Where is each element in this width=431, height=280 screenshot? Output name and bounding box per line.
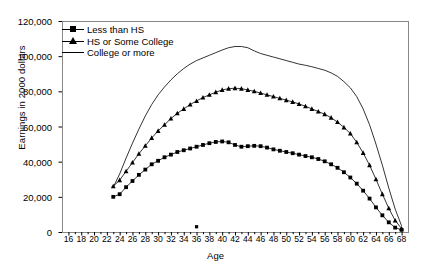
data-point-marker — [387, 220, 391, 224]
data-point-marker — [150, 162, 154, 166]
data-point-marker — [335, 120, 340, 125]
data-point-marker — [386, 206, 391, 211]
series-line-2 — [113, 47, 401, 226]
x-tick-label: 22 — [102, 234, 112, 244]
stray-data-point-marker — [195, 225, 198, 228]
data-point-marker — [137, 173, 141, 177]
x-axis-title: Age — [0, 250, 431, 261]
legend-marker-icon — [62, 47, 84, 58]
legend-marker-icon — [62, 24, 84, 35]
x-tick-label: 62 — [358, 234, 368, 244]
x-tick-label: 50 — [281, 234, 291, 244]
x-tick-label: 18 — [76, 234, 86, 244]
data-point-marker — [393, 226, 397, 230]
earnings-by-age-chart: Earnings in 2000 dollars 020,00040,00060… — [0, 0, 431, 280]
x-tick-label: 52 — [294, 234, 304, 244]
data-point-marker — [278, 149, 282, 153]
data-point-marker — [156, 159, 160, 163]
legend-item: Less than HS — [62, 24, 174, 36]
data-point-marker — [380, 213, 384, 217]
data-point-marker — [297, 153, 301, 157]
legend-label: College or more — [87, 47, 155, 59]
data-point-marker — [393, 218, 398, 223]
data-point-marker — [329, 162, 333, 166]
x-tick-label: 30 — [153, 234, 163, 244]
data-point-marker — [361, 189, 365, 193]
data-point-marker — [207, 141, 211, 145]
data-point-marker — [118, 192, 122, 196]
data-point-marker — [169, 116, 174, 121]
x-tick-label: 26 — [128, 234, 138, 244]
data-point-marker — [111, 195, 115, 199]
data-point-marker — [131, 179, 135, 183]
data-point-marker — [175, 111, 180, 116]
data-point-marker — [336, 166, 340, 170]
data-point-marker — [291, 151, 295, 155]
x-tick-label: 20 — [89, 234, 99, 244]
legend-label: Less than HS — [87, 24, 144, 36]
data-point-marker — [310, 155, 314, 159]
data-point-marker — [246, 144, 250, 148]
data-point-marker — [233, 143, 237, 147]
data-point-marker — [124, 185, 128, 189]
x-tick-label: 58 — [333, 234, 343, 244]
data-point-marker — [214, 140, 218, 144]
chart-legend: Less than HSHS or Some CollegeCollege or… — [62, 24, 174, 59]
data-point-marker — [220, 140, 224, 144]
data-point-marker — [201, 143, 205, 147]
data-point-marker — [367, 163, 372, 168]
data-point-marker — [182, 148, 186, 152]
data-point-marker — [195, 145, 199, 149]
x-tick-label: 40 — [217, 234, 227, 244]
data-point-marker — [348, 176, 352, 180]
data-point-marker — [240, 145, 244, 149]
data-point-marker — [361, 150, 366, 155]
x-tick-label: 54 — [307, 234, 317, 244]
series-line-0 — [113, 141, 401, 229]
data-point-marker — [342, 170, 346, 174]
x-tick-label: 44 — [243, 234, 253, 244]
x-tick-label: 28 — [141, 234, 151, 244]
x-tick-label: 36 — [192, 234, 202, 244]
data-point-marker — [181, 106, 186, 111]
x-tick-label: 32 — [166, 234, 176, 244]
x-tick-label: 34 — [179, 234, 189, 244]
data-point-marker — [227, 140, 231, 144]
legend-marker-icon — [62, 36, 84, 47]
data-point-marker — [175, 150, 179, 154]
data-point-marker — [233, 86, 238, 91]
legend-label: HS or Some College — [87, 36, 174, 48]
data-point-marker — [188, 147, 192, 151]
data-point-marker — [316, 157, 320, 161]
x-tick-label: 16 — [64, 234, 74, 244]
data-point-marker — [284, 150, 288, 154]
x-tick-label: 66 — [384, 234, 394, 244]
data-point-marker — [265, 146, 269, 150]
data-point-marker — [272, 147, 276, 151]
data-point-marker — [323, 159, 327, 163]
legend-item: HS or Some College — [62, 36, 174, 48]
data-point-marker — [143, 168, 147, 172]
x-tick-label: 68 — [397, 234, 407, 244]
data-point-marker — [342, 125, 347, 130]
data-point-marker — [380, 192, 385, 197]
data-point-marker — [188, 102, 193, 107]
x-tick-label: 46 — [256, 234, 266, 244]
x-tick-label: 64 — [371, 234, 381, 244]
data-point-marker — [374, 205, 378, 209]
data-point-marker — [329, 115, 334, 120]
x-tick-label: 42 — [230, 234, 240, 244]
x-tick-label: 38 — [205, 234, 215, 244]
series-line-1 — [113, 88, 401, 228]
data-point-marker — [355, 182, 359, 186]
x-tick-label: 24 — [115, 234, 125, 244]
data-point-marker — [259, 144, 263, 148]
x-tick-label: 56 — [320, 234, 330, 244]
data-point-marker — [368, 197, 372, 201]
data-point-marker — [169, 153, 173, 157]
data-point-marker — [194, 98, 199, 103]
legend-item: College or more — [62, 47, 174, 59]
x-tick-label: 60 — [346, 234, 356, 244]
data-point-marker — [304, 154, 308, 158]
data-point-marker — [374, 177, 379, 182]
